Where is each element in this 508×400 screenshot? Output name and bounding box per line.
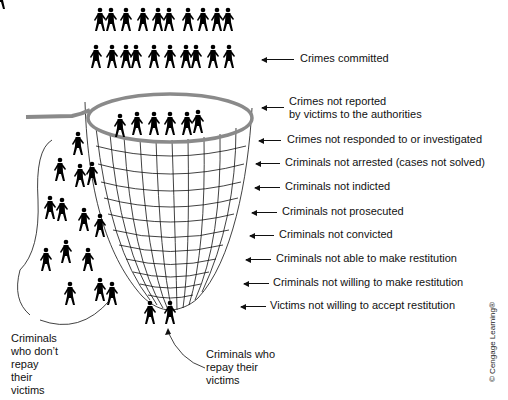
stage-label-crimes-committed: Crimes committed (300, 52, 389, 65)
stage-label-not-willing-restitution: Criminals not willing to make restitutio… (273, 276, 463, 289)
restitution-funnel-diagram: Crimes committed Crimes not reported by … (0, 0, 508, 400)
stage-arrow (255, 187, 280, 188)
stage-arrow (246, 259, 271, 260)
stage-label-not-reported: Crimes not reported by victims to the au… (289, 95, 422, 121)
stage-label-victims-not-willing: Victims not willing to accept restitutio… (270, 299, 455, 312)
stage-arrow (259, 140, 281, 141)
stage-arrow (241, 306, 266, 307)
stage-label-not-convicted: Criminals not convicted (279, 228, 393, 241)
stage-label-not-able-restitution: Criminals not able to make restitution (276, 252, 457, 265)
left-group-bracket (18, 140, 52, 315)
crowd-figures-icon (0, 0, 235, 68)
stage-arrow (244, 283, 269, 284)
stage-label-not-investigated: Crimes not responded to or investigated (287, 133, 482, 146)
stage-arrow (262, 107, 284, 108)
stage-label-not-indicted: Criminals not indicted (285, 180, 390, 193)
stage-label-not-arrested: Criminals not arrested (cases not solved… (285, 156, 485, 169)
funnel-net-illustration (0, 0, 508, 400)
annotation-non-repaying-criminals: Criminals who don’t repay their victims (11, 332, 58, 397)
stage-arrow (252, 212, 277, 213)
annotation-repaying-criminals: Criminals who repay their victims (206, 348, 275, 387)
stage-arrow (250, 235, 274, 236)
bottom-callout-arrow (168, 332, 205, 368)
copyright-notice: © Cengage Learning® (488, 302, 497, 382)
net-handle (26, 110, 90, 117)
stage-label-not-prosecuted: Criminals not prosecuted (282, 205, 404, 218)
stage-arrow (262, 59, 294, 60)
stage-arrow (256, 163, 280, 164)
